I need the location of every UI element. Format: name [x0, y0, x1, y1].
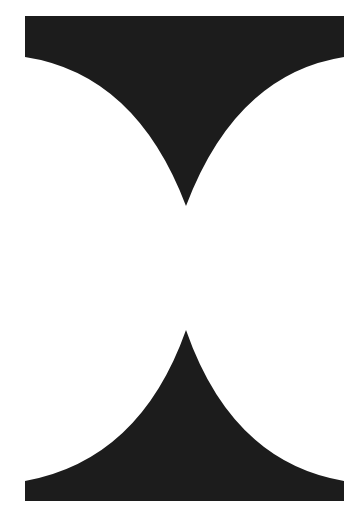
top-cusp-shape	[25, 16, 344, 206]
canvas	[0, 0, 358, 517]
bottom-cusp-shape	[25, 330, 344, 501]
cusp-shapes-graphic	[0, 0, 358, 517]
